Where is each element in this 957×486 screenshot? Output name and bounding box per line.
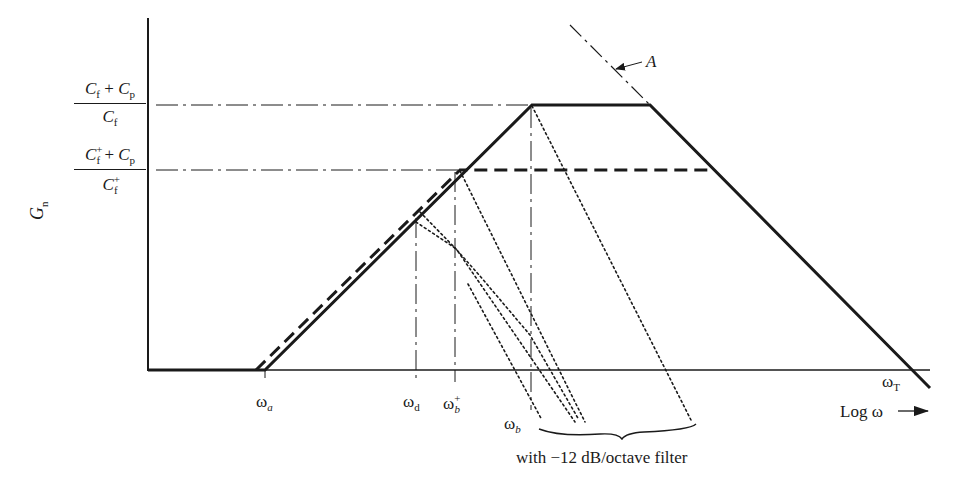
filter-rolloff-lines [416, 106, 691, 422]
rolloff-from-upper [532, 106, 691, 420]
brace [539, 424, 696, 439]
noise-gain-curve-solid [148, 105, 930, 388]
omega-b-plus-label: ω+b [443, 393, 460, 415]
rolloff-from-lower [460, 171, 585, 422]
line-A [570, 25, 650, 105]
omega-d-label: ωd [403, 393, 420, 413]
upper-level-label: Cf + Cp Cf [74, 80, 146, 129]
omega-b-label: ωb [504, 415, 521, 435]
brace-caption: with −12 dB/octave filter [516, 449, 688, 466]
x-axis-label: Log ω [840, 403, 883, 420]
omega-T-label: ωT [882, 373, 900, 393]
rolloff-from-omega-d-b [416, 222, 579, 420]
annotation-A: A [646, 53, 656, 70]
noise-gain-curve-dashed [256, 170, 712, 370]
arrow-A [616, 62, 642, 69]
rolloff-from-omega-d-a [420, 212, 575, 422]
noise-gain-diagram [0, 0, 957, 486]
omega-a-label: ωa [256, 393, 273, 413]
lower-level-label: C+f + Cp C+f [74, 144, 146, 196]
axes [147, 18, 930, 371]
marker-lines [265, 108, 531, 410]
y-axis-label: Gn [28, 202, 50, 221]
